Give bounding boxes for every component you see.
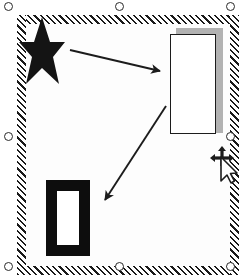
handle-top-center[interactable] <box>115 2 124 11</box>
connector-layer <box>0 0 247 279</box>
handle-top-right[interactable] <box>226 2 235 11</box>
handle-bottom-center[interactable] <box>115 262 124 271</box>
shape-layer <box>0 0 247 279</box>
handle-middle-left[interactable] <box>4 132 13 141</box>
arrow-star-to-rectangle[interactable] <box>70 50 160 71</box>
move-cursor-icon <box>209 146 243 186</box>
handle-middle-right[interactable] <box>226 132 235 141</box>
handle-top-left[interactable] <box>4 2 13 11</box>
handle-bottom-left[interactable] <box>4 262 13 271</box>
move-cursor <box>209 146 243 186</box>
handle-bottom-right[interactable] <box>226 262 235 271</box>
drawing-canvas-app <box>0 0 247 279</box>
arrow-rectangle-to-thick-rectangle[interactable] <box>105 106 166 200</box>
